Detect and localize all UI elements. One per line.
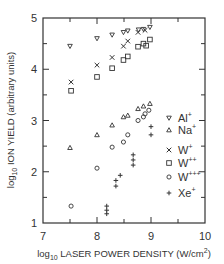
legend-label: W+ [178, 143, 192, 156]
data-point [121, 115, 126, 119]
data-point [125, 29, 130, 33]
data-point [125, 39, 130, 44]
data-point [126, 133, 130, 137]
legend-label: W++ [178, 156, 197, 169]
data-point [95, 75, 100, 80]
data-point [149, 124, 154, 129]
x-tick-label: 10 [199, 230, 211, 242]
x-marker-icon [167, 148, 172, 153]
data-point [121, 31, 126, 35]
legend: Al+Na+W+W++W+++Xe+ [167, 111, 201, 199]
square-marker-icon [167, 161, 172, 166]
data-point [125, 113, 130, 117]
data-point [147, 108, 151, 112]
data-point [95, 166, 99, 170]
data-point [136, 44, 141, 49]
data-point [68, 145, 73, 149]
legend-item: Xe+ [167, 186, 196, 199]
data-points [68, 25, 154, 216]
x-axis-label: log10 LASER POWER DENSITY (W/cm2) [37, 247, 211, 261]
series-nap [68, 101, 153, 149]
data-point [114, 178, 119, 183]
x-tick-label: 9 [148, 230, 154, 242]
scatter-chart: 7891012345 Al+Na+W+W++W+++Xe+ log10 LASE… [0, 0, 224, 264]
y-tick-label: 1 [31, 217, 37, 229]
y-tick-label: 5 [31, 12, 37, 24]
y-tick-label: 2 [31, 166, 37, 178]
data-point [131, 163, 136, 168]
data-point [95, 63, 100, 68]
series-xep [104, 124, 153, 216]
legend-item: W+++ [167, 170, 201, 183]
y-tick-label: 3 [31, 115, 37, 127]
x-tick-label: 7 [40, 230, 46, 242]
data-point [69, 88, 74, 93]
data-point [104, 204, 109, 209]
legend-label: Xe+ [178, 186, 196, 199]
data-point [131, 158, 136, 163]
circle-marker-icon [167, 175, 171, 179]
data-point [95, 133, 100, 137]
legend-label: W+++ [178, 170, 201, 183]
data-point [104, 211, 109, 216]
triangle-up-marker-icon [167, 128, 172, 132]
data-point [114, 184, 119, 189]
y-tick-label: 4 [31, 63, 37, 75]
data-point [131, 153, 136, 158]
data-point [95, 37, 100, 41]
series-wppp [69, 108, 151, 208]
data-point [110, 123, 115, 127]
data-point [121, 140, 125, 144]
data-point [110, 55, 115, 60]
legend-item: W+ [167, 143, 193, 156]
data-point [148, 25, 153, 29]
data-point [110, 66, 115, 71]
data-point [141, 104, 146, 108]
series-wpp [69, 37, 152, 93]
data-point [118, 173, 123, 178]
data-point [136, 118, 140, 122]
legend-item: W++ [167, 156, 197, 169]
data-point [148, 37, 153, 42]
data-point [149, 133, 154, 138]
legend-item: Al+ [167, 111, 192, 124]
plus-marker-icon [167, 191, 172, 196]
data-point [148, 101, 153, 105]
legend-label: Al+ [178, 111, 192, 124]
data-point [69, 204, 73, 208]
series-alp [68, 25, 153, 48]
data-point [110, 33, 115, 37]
triangle-down-marker-icon [167, 116, 172, 120]
series-wp [69, 28, 148, 84]
x-tick-label: 8 [94, 230, 100, 242]
data-point [110, 145, 114, 149]
data-point [68, 44, 73, 48]
legend-label: Na+ [178, 123, 196, 136]
data-point [136, 106, 141, 110]
y-axis-label: log10 ION YIELD (arbitrary units) [5, 52, 18, 188]
data-point [69, 80, 74, 85]
data-point [121, 44, 126, 49]
legend-item: Na+ [167, 123, 196, 136]
